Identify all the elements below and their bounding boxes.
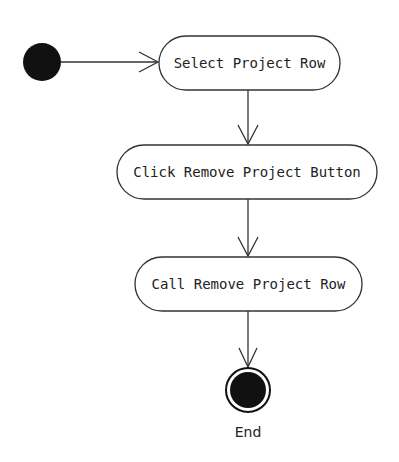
- edge-select-to-click: [238, 90, 258, 144]
- activity-diagram: Select Project Row Click Remove Project …: [0, 0, 399, 462]
- action-label: Call Remove Project Row: [152, 276, 346, 292]
- action-call-remove-project-row: Call Remove Project Row: [135, 257, 362, 311]
- action-label: Select Project Row: [174, 55, 326, 71]
- initial-node: [23, 43, 61, 81]
- final-node-label: End: [235, 424, 262, 440]
- edge-initial-to-select: [61, 52, 158, 72]
- action-click-remove-project-button: Click Remove Project Button: [117, 145, 377, 199]
- action-select-project-row: Select Project Row: [159, 36, 340, 90]
- edge-click-to-call: [238, 199, 258, 256]
- final-node: [226, 368, 270, 412]
- edge-call-to-end: [239, 311, 257, 367]
- action-label: Click Remove Project Button: [133, 164, 361, 180]
